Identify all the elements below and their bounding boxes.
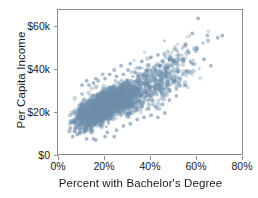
x-tick-label-80: 80% [222, 160, 258, 172]
x-tick-label-0: 0% [38, 160, 78, 172]
plot-area [57, 9, 243, 155]
x-tick-label-60: 60% [176, 160, 216, 172]
scatter-point-cloud [58, 10, 243, 155]
x-tick-label-40: 40% [130, 160, 170, 172]
x-tick-label-20: 20% [84, 160, 124, 172]
scatter-plot-figure: Per Capita Income $60k $40k $20k $0 0% 2… [0, 0, 258, 198]
x-axis-title: Percent with Bachelor's Degree [0, 177, 258, 189]
